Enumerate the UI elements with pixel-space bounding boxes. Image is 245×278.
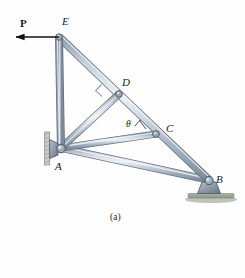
- label-joint-C: C: [166, 122, 173, 134]
- right-angle-marker-D: [96, 85, 103, 97]
- label-joint-D: D: [122, 76, 130, 88]
- joint-pin-D: [116, 91, 123, 98]
- truss-diagram: [0, 0, 245, 278]
- label-angle-theta: θ: [126, 119, 131, 129]
- figure-canvas: P E D C A B θ (a): [0, 0, 245, 278]
- member-EA: [57, 37, 61, 150]
- joint-pin-C: [153, 131, 160, 138]
- member-EB: [59, 35, 211, 180]
- figure-caption: (a): [110, 212, 121, 222]
- label-force-P: P: [20, 17, 27, 29]
- label-joint-B: B: [216, 173, 223, 185]
- label-joint-A: A: [55, 160, 62, 172]
- label-joint-E: E: [62, 15, 69, 27]
